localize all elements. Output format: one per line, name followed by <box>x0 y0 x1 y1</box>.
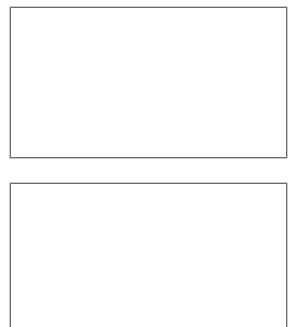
empty-panel-top <box>10 7 287 158</box>
empty-panel-bottom <box>10 183 287 327</box>
page <box>0 0 292 327</box>
